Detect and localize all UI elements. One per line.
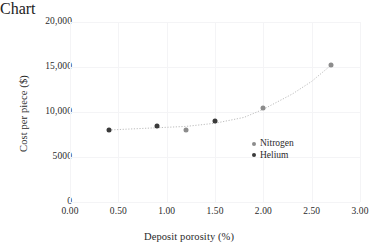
data-point-helium xyxy=(213,119,218,124)
x-tick-label: 1.50 xyxy=(190,206,240,216)
legend-label: Nitrogen xyxy=(260,138,294,150)
chart-figure: Cost per piece ($) Deposit porosity (%) … xyxy=(0,0,378,249)
y-tick-label: 15,000 xyxy=(12,61,72,71)
y-tick-label: 5000 xyxy=(12,151,72,161)
x-tick-label: 0.00 xyxy=(45,206,95,216)
x-tick-label: 3.00 xyxy=(335,206,378,216)
trend-line-path xyxy=(109,65,331,130)
legend-item-nitrogen[interactable]: Nitrogen xyxy=(252,138,294,150)
data-point-nitrogen xyxy=(184,127,189,132)
gridline-vertical xyxy=(360,22,361,202)
y-tick-label: 0 xyxy=(12,196,72,206)
x-axis-title: Deposit porosity (%) xyxy=(0,231,378,242)
trend-line xyxy=(70,22,360,202)
legend-item-helium[interactable]: Helium xyxy=(252,150,294,162)
legend-marker-icon xyxy=(252,142,256,146)
legend-label: Helium xyxy=(260,150,289,162)
x-tick-label: 2.00 xyxy=(238,206,288,216)
data-point-nitrogen xyxy=(329,63,334,68)
x-tick-label: 0.50 xyxy=(93,206,143,216)
data-point-helium xyxy=(155,124,160,129)
x-tick-label: 1.00 xyxy=(142,206,192,216)
plot-area xyxy=(70,22,360,202)
data-point-nitrogen xyxy=(261,106,266,111)
data-point-helium xyxy=(106,128,111,133)
x-tick-label: 2.50 xyxy=(287,206,337,216)
gridline-horizontal xyxy=(70,202,360,203)
legend-marker-icon xyxy=(252,153,256,157)
y-tick-label: 10,000 xyxy=(12,106,72,116)
chart-legend: NitrogenHelium xyxy=(252,138,294,161)
y-tick-label: 20,000 xyxy=(12,16,72,26)
